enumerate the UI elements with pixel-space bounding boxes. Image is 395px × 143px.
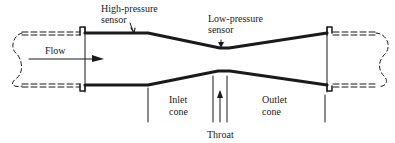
inlet-cone-label-line2: cone (169, 106, 188, 117)
venturi-meter-diagram (0, 0, 395, 143)
venturi-bottom-wall (85, 71, 327, 85)
high-pressure-sensor-label-line1: High-pressure (101, 3, 158, 14)
low-pressure-sensor-label-line1: Low-pressure (208, 13, 263, 24)
downstream-pipe-dashed (333, 32, 388, 87)
inlet-cone-label-line1: Inlet (169, 94, 187, 105)
flow-arrow (29, 55, 104, 62)
outlet-flange (327, 27, 332, 92)
outlet-cone-label-line2: cone (262, 106, 281, 117)
throat-markers (213, 76, 227, 122)
venturi-top-wall (85, 33, 327, 48)
flow-label: Flow (45, 45, 66, 56)
outlet-cone-label-line1: Outlet (262, 94, 287, 105)
high-pressure-sensor-label-line2: sensor (101, 14, 127, 25)
low-pressure-sensor-label-line2: sensor (208, 24, 234, 35)
throat-label: Throat (207, 129, 234, 140)
